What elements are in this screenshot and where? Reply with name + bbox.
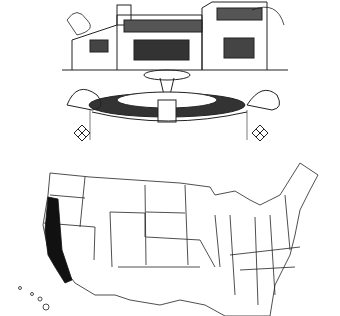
diamond-ornament-right	[251, 124, 269, 142]
diamond-ornament-left	[73, 124, 91, 142]
us-map	[0, 155, 340, 316]
